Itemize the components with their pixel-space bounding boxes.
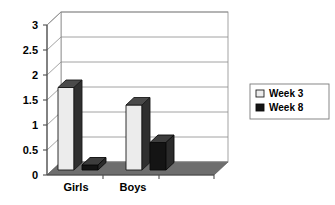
legend-entry-week8[interactable]: Week 8 (256, 102, 304, 113)
x-category-label-boys: Boys (120, 181, 147, 193)
bar-chart: 3 2.5 2 1.5 1 0.5 0 (0, 0, 335, 205)
bar-front-face (150, 143, 166, 171)
legend-label-week8: Week 8 (269, 102, 304, 113)
legend-label-week3: Week 3 (269, 88, 304, 99)
y-tick-label-3: 3 (32, 19, 38, 31)
bar-girls-week3 (58, 80, 82, 170)
bar-front-face (58, 88, 74, 171)
y-tick-label-2_5: 2.5 (23, 44, 38, 56)
bar-front-face (82, 165, 98, 170)
x-axis-ticks (103, 175, 214, 179)
chart-canvas: 3 2.5 2 1.5 1 0.5 0 (0, 0, 335, 205)
y-axis-tick-labels: 3 2.5 2 1.5 1 0.5 0 (23, 19, 38, 181)
bar-boys-week8 (150, 135, 174, 170)
bar-side-face (74, 80, 82, 170)
y-tick-label-2: 2 (32, 69, 38, 81)
dark-swatch-icon (256, 104, 264, 111)
y-tick-label-0_5: 0.5 (23, 144, 38, 156)
legend: Week 3 Week 8 (250, 84, 329, 119)
y-tick-label-0: 0 (32, 169, 38, 181)
light-swatch-icon (256, 90, 264, 97)
bar-front-face (126, 105, 142, 170)
y-tick-label-1: 1 (32, 119, 38, 131)
bar-boys-week3 (126, 98, 150, 171)
x-category-label-girls: Girls (63, 181, 88, 193)
y-tick-label-1_5: 1.5 (23, 94, 38, 106)
bar-side-face (142, 98, 150, 171)
x-axis-category-labels: Girls Boys (63, 181, 146, 193)
legend-entry-week3[interactable]: Week 3 (256, 88, 304, 99)
